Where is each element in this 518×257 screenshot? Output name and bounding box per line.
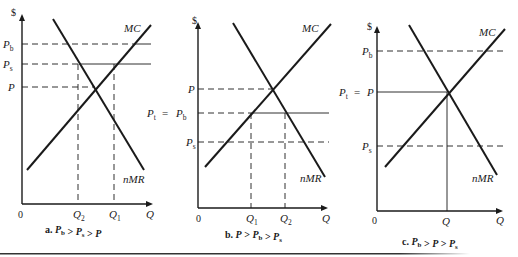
price-label-p: P [7,81,15,93]
mc-curve [205,24,331,167]
price-label-p: P [187,83,195,95]
quantity-label-1: Q1 [109,208,121,223]
price-label-tariff: Pt [338,86,349,101]
origin-label: 0 [196,213,201,224]
equals-sign: = [162,107,168,119]
price-label-s: Ps [361,140,372,155]
price-label-b: Pb [2,38,14,53]
quantity-label-2: Q2 [73,208,85,223]
panel-c: $0QPbPt=PPsQMCnMRc. Pb > P > Ps [338,21,505,251]
x-axis-arrow-icon [146,201,153,207]
panel-b: $0QPPt=PbPsQ1Q2MCnMRb. P > Pb > Ps [146,15,331,244]
quantity-axis-label: Q [322,212,330,224]
bottom-rule [0,253,470,255]
dollar-axis-label: $ [11,7,16,18]
panel-a: $0QPbPsPQ2Q1MCnMRa. Pb > Ps > P [2,7,154,239]
mc-label: MC [478,26,496,38]
nmr-curve [409,25,497,175]
nmr-label: nMR [472,172,494,184]
mc-label: MC [301,22,319,34]
y-axis-arrow-icon [374,26,380,33]
nmr-curve [53,19,144,170]
nmr-label: nMR [300,172,322,184]
mc-label: MC [123,22,141,34]
origin-label: 0 [372,215,377,226]
quantity-label-1: Q1 [246,212,258,227]
dollar-axis-label: $ [367,21,372,32]
quantity-label-2: Q2 [280,212,292,227]
mc-curve [27,25,151,170]
nmr-label: nMR [123,173,145,185]
panel-caption: a. Pb > Ps > P [45,224,102,239]
quantity-axis-label: Q [146,208,154,220]
price-label-tariff: Pt [146,107,157,122]
price-label-s: Ps [2,58,13,73]
origin-label: 0 [18,209,23,220]
panel-caption: c. Pb > P > Ps [402,236,458,251]
quantity-label-q: Q [442,215,450,227]
three-panel-economics-diagram: $0QPbPsPQ2Q1MCnMRa. Pb > Ps > P$0QPPt=Pb… [0,0,518,257]
panel-caption: b. P > Pb > Ps [225,229,282,244]
equals-sign: = [354,86,360,98]
price-label-b: Pb [175,107,187,122]
dollar-axis-label: $ [192,15,197,26]
quantity-axis-label: Q [496,214,504,226]
figure-container: $0QPbPsPQ2Q1MCnMRa. Pb > Ps > P$0QPPt=Pb… [0,0,518,257]
price-label-b: Pb [361,45,373,60]
price-label-s: Ps [185,136,196,151]
x-axis-arrow-icon [321,205,328,211]
price-label-p: P [366,86,374,98]
y-axis-arrow-icon [19,14,25,21]
